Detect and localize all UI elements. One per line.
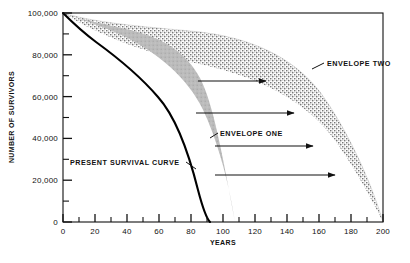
x-tick-label: 20	[90, 227, 100, 236]
y-tick-label: 20,000	[32, 176, 58, 185]
x-tick-labels: 0 20 40 60 80 100 120 140 160 180 200	[61, 227, 391, 236]
y-axis-title: NUMBER OF SURVIVORS	[8, 71, 15, 163]
x-tick-label: 100	[216, 227, 230, 236]
x-tick-label: 180	[344, 227, 358, 236]
annotation-label: ENVELOPE ONE	[220, 129, 283, 138]
y-tick-label: 0	[53, 218, 58, 227]
x-tick-label: 60	[154, 227, 164, 236]
y-tick-label: 100,000	[28, 9, 59, 18]
y-tick-label: 80,000	[32, 51, 58, 60]
y-tick-labels: 100,000 80,000 60,000 40,000 20,000 0	[28, 9, 59, 227]
y-tick-label: 40,000	[32, 134, 58, 143]
x-tick-label: 200	[376, 227, 390, 236]
x-tick-label: 160	[312, 227, 326, 236]
y-tick-label: 60,000	[32, 93, 58, 102]
x-tick-label: 120	[248, 227, 262, 236]
annotation-envelope-one: ENVELOPE ONE	[210, 129, 283, 138]
x-tick-label: 40	[122, 227, 132, 236]
x-tick-label: 80	[186, 227, 196, 236]
annotation-label: ENVELOPE TWO	[327, 59, 391, 68]
x-tick-label: 140	[280, 227, 294, 236]
x-tick-label: 0	[61, 227, 66, 236]
survival-curve-chart: 100,000 80,000 60,000 40,000 20,000 0 0 …	[0, 0, 410, 263]
annotation-label: PRESENT SURVIVAL CURVE	[70, 158, 180, 167]
x-axis-title: YEARS	[210, 239, 236, 246]
chart-canvas: 100,000 80,000 60,000 40,000 20,000 0 0 …	[0, 0, 410, 263]
